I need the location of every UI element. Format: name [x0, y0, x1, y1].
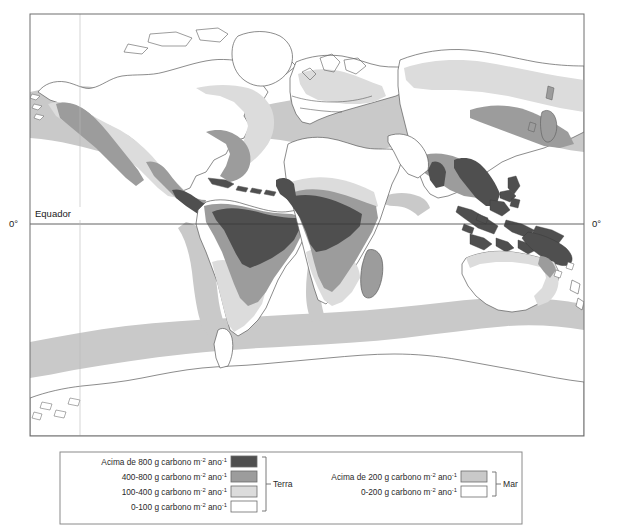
- japan: [541, 110, 557, 142]
- legend-swatch-sea-0: [461, 471, 487, 482]
- legend-row-land-3[interactable]: 0-100 g carbono m-2 ano-1: [131, 501, 257, 512]
- legend-swatch-land-0: [231, 456, 257, 467]
- legend-row-land-1[interactable]: 400-800 g carbono m-2 ano-1: [122, 471, 257, 482]
- legend-label-sea-0: Acima de 200 g carbono m-2 ano-1: [331, 472, 457, 482]
- legend-group-label-sea: Mar: [503, 479, 518, 489]
- productivity-world-map-figure: Equador 0° 0° Acima de 800 g carbono m-2…: [0, 0, 618, 532]
- legend-swatch-land-1: [231, 471, 257, 482]
- legend-swatch-sea-1: [461, 486, 487, 497]
- legend-swatch-land-3: [231, 501, 257, 512]
- latitude-tick-right: 0°: [592, 218, 601, 229]
- legend-row-land-2[interactable]: 100-400 g carbono m-2 ano-1: [122, 486, 257, 497]
- latitude-tick-left: 0°: [9, 218, 18, 229]
- legend-label-land-3: 0-100 g carbono m-2 ano-1: [131, 502, 227, 512]
- legend-label-land-0: Acima de 800 g carbono m-2 ano-1: [101, 457, 227, 467]
- legend-label-land-2: 100-400 g carbono m-2 ano-1: [122, 487, 227, 497]
- legend-row-land-0[interactable]: Acima de 800 g carbono m-2 ano-1: [101, 456, 257, 467]
- legend-panel: Acima de 800 g carbono m-2 ano-1 400-800…: [60, 452, 522, 524]
- legend-label-land-1: 400-800 g carbono m-2 ano-1: [122, 472, 227, 482]
- legend-row-sea-0[interactable]: Acima de 200 g carbono m-2 ano-1: [331, 471, 487, 482]
- equator-label: Equador: [35, 208, 71, 219]
- legend-group-label-land: Terra: [273, 479, 293, 489]
- legend-swatch-land-2: [231, 486, 257, 497]
- legend-label-sea-1: 0-200 g carbono m-2 ano-1: [361, 487, 457, 497]
- legend-row-sea-1[interactable]: 0-200 g carbono m-2 ano-1: [361, 486, 487, 497]
- map-panel: Equador 0° 0°: [9, 14, 601, 436]
